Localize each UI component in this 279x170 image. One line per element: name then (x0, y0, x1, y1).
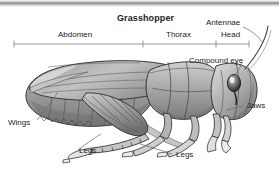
antenna (245, 26, 271, 72)
callout-label-wings: Wings (8, 119, 30, 127)
head (211, 62, 257, 120)
grasshopper-anatomy-figure: Grasshopper Abdomen Thorax Head Antennae… (0, 0, 279, 170)
jaws (207, 114, 231, 153)
callout-label-jaws: Jaws (247, 102, 265, 110)
leader-antennae (243, 27, 262, 42)
callout-label-compound-eye: Compound eye (189, 57, 243, 65)
region-label-thorax: Thorax (166, 31, 191, 39)
callout-label-antennae: Antennae (206, 19, 240, 27)
page-title: Grasshopper (117, 14, 174, 23)
thorax (146, 61, 221, 119)
callout-label-legs-front: Legs (79, 147, 96, 155)
callout-label-legs-hind: Legs (176, 151, 193, 159)
body-region-scale-bar (14, 41, 249, 48)
region-label-abdomen: Abdomen (58, 31, 92, 39)
region-label-head: Head (221, 31, 240, 39)
